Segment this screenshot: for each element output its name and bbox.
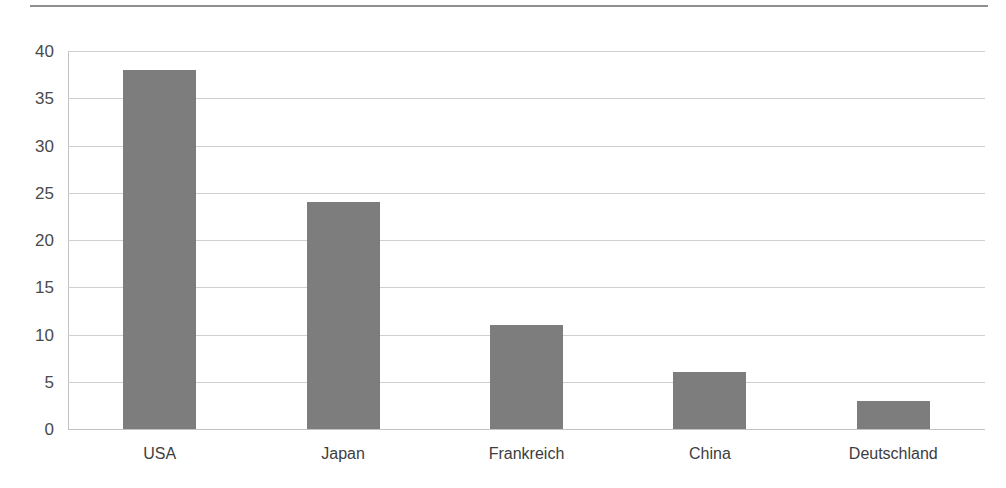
x-tick-label-deutschland: Deutschland [849, 446, 938, 462]
bar-japan[interactable] [307, 202, 380, 429]
bar-deutschland[interactable] [857, 401, 930, 429]
y-tick-label-35: 35 [8, 90, 54, 107]
bar-usa[interactable] [123, 70, 196, 429]
gridline-25 [68, 193, 985, 194]
top-divider-rule [30, 5, 988, 7]
gridline-35 [68, 98, 985, 99]
plot-area [68, 51, 985, 429]
gridline-20 [68, 240, 985, 241]
y-tick-label-10: 10 [8, 326, 54, 343]
x-tick-label-china: China [689, 446, 731, 462]
y-tick-label-30: 30 [8, 137, 54, 154]
gridline-40 [68, 51, 985, 52]
bar-chart-figure: 0510152025303540 USAJapanFrankreichChina… [0, 0, 1006, 488]
x-tick-label-japan: Japan [321, 446, 365, 462]
y-tick-label-25: 25 [8, 184, 54, 201]
gridline-0 [68, 429, 985, 430]
x-tick-label-frankreich: Frankreich [489, 446, 565, 462]
y-tick-label-40: 40 [8, 43, 54, 60]
y-tick-label-5: 5 [8, 373, 54, 390]
gridline-15 [68, 287, 985, 288]
y-tick-label-20: 20 [8, 232, 54, 249]
bar-frankreich[interactable] [490, 325, 563, 429]
gridline-30 [68, 146, 985, 147]
y-tick-label-15: 15 [8, 279, 54, 296]
bar-china[interactable] [673, 372, 746, 429]
x-tick-label-usa: USA [143, 446, 176, 462]
y-axis-tick-labels: 0510152025303540 [0, 0, 54, 488]
y-tick-label-0: 0 [8, 421, 54, 438]
